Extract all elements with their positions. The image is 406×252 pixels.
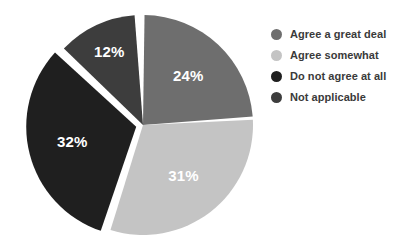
legend-item-label: Not applicable <box>290 92 366 103</box>
legend-item[interactable]: Agree somewhat <box>271 45 403 66</box>
pie-svg: 24%31%32%12% <box>0 0 262 252</box>
legend-item[interactable]: Do not agree at all <box>271 66 403 87</box>
chart-legend: Agree a great dealAgree somewhatDo not a… <box>271 24 403 108</box>
pie-slices-group <box>26 15 253 235</box>
legend-swatch-icon <box>271 71 282 82</box>
pie-slice-label: 31% <box>168 167 199 184</box>
pie-slice-label: 12% <box>94 43 125 60</box>
legend-item-label: Agree a great deal <box>290 29 386 40</box>
legend-item-label: Agree somewhat <box>290 50 379 61</box>
legend-swatch-icon <box>271 29 282 40</box>
legend-item[interactable]: Not applicable <box>271 87 403 108</box>
pie-slice-label: 24% <box>173 67 204 84</box>
legend-swatch-icon <box>271 92 282 103</box>
pie-slice-label: 32% <box>57 133 88 150</box>
pie-plot-area: 24%31%32%12% <box>0 0 262 252</box>
legend-swatch-icon <box>271 50 282 61</box>
pie-chart: 24%31%32%12% Agree a great dealAgree som… <box>0 0 406 252</box>
legend-item-label: Do not agree at all <box>290 71 386 82</box>
legend-item[interactable]: Agree a great deal <box>271 24 403 45</box>
